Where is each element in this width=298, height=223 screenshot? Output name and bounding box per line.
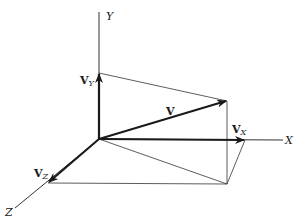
vector-vx (99, 139, 244, 140)
vector-v-label: V (165, 105, 175, 118)
vector-vy-label: VY (79, 74, 95, 88)
vector-vx-label-subscript: X (240, 128, 247, 137)
vector-vz-label-subscript: Z (42, 172, 49, 181)
vector-vy-label-subscript: Y (89, 79, 95, 88)
construction-line-vy-to-v (99, 73, 227, 101)
vector-vx-label-main: V (231, 123, 241, 136)
vector-vx-label: VX (231, 123, 247, 137)
z-axis-label: Z (4, 206, 13, 219)
y-axis-label: Y (106, 10, 115, 23)
vector-v (99, 101, 226, 139)
vector-vz-label: VZ (33, 167, 49, 181)
construction-line-vx-to-base (227, 140, 245, 184)
vector-vz (49, 139, 99, 182)
vector-vz-label-main: V (33, 167, 43, 180)
vector-components-diagram: Y X Z V VY VX VZ (0, 0, 298, 223)
construction-line-vz-to-base (48, 183, 227, 184)
x-axis-label: X (284, 134, 294, 147)
construction-line-origin-to-base (99, 139, 227, 184)
vector-vy-label-main: V (79, 74, 89, 87)
